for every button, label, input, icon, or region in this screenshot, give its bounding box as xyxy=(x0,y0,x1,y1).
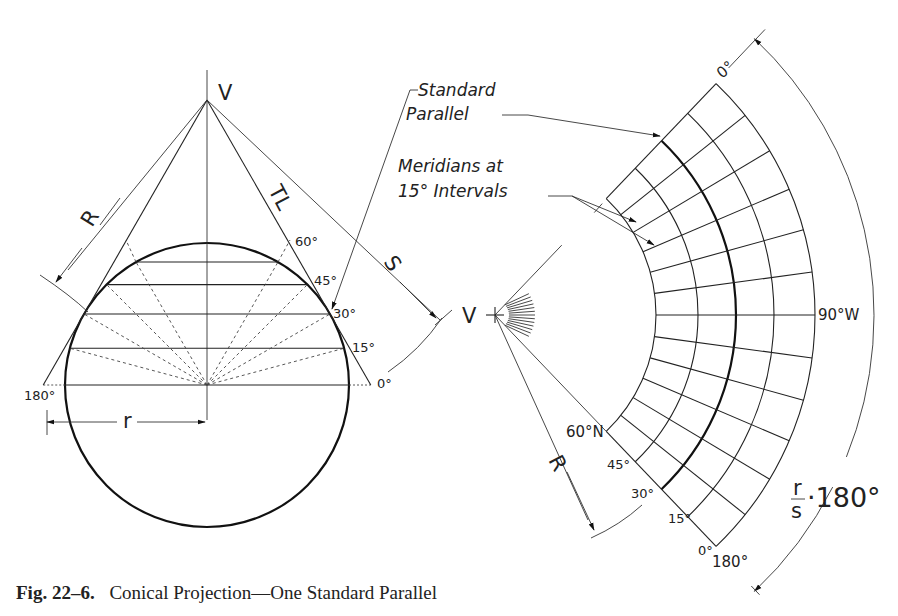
latitude-label-60: 60° xyxy=(295,234,318,249)
meridian-line-8 xyxy=(650,358,803,400)
mini-fan-stroke-5 xyxy=(509,311,535,313)
meridian-line-2 xyxy=(633,151,769,233)
r-right-arrow xyxy=(567,472,594,530)
r-dimension-arrow xyxy=(56,248,82,282)
standard-parallel-callout-line1: Standard xyxy=(418,80,496,100)
arc-length-label: S xyxy=(379,251,406,276)
radial-dash-right-45 xyxy=(207,285,307,385)
meridian-180-label: 180° xyxy=(712,553,748,571)
radial-dash-left-30 xyxy=(84,314,207,385)
r-dimension-line-upper xyxy=(100,198,120,225)
s-dimension-arc xyxy=(388,318,442,372)
figure-number: Fig. 22–6. xyxy=(16,582,95,603)
apex-line-lower xyxy=(495,315,606,431)
lat-label-0: 0° xyxy=(698,543,713,558)
radial-dash-left-15 xyxy=(70,348,207,385)
angle-formula-rest: ·180° xyxy=(807,482,881,513)
radial-dash-right-15 xyxy=(207,348,344,385)
meridian-line-12 xyxy=(606,431,716,546)
angle-formula-denominator: s xyxy=(791,499,802,523)
meridian-line-0 xyxy=(606,84,716,199)
cone-elevation-view: V TL R S r 0° 15° 30° 45° 60° 180° xyxy=(24,70,452,527)
meridian-line-4 xyxy=(650,230,803,272)
lat-label-45: 45° xyxy=(607,457,630,472)
latitude-label-45: 45° xyxy=(314,273,337,288)
mini-fan-stroke-7 xyxy=(509,317,535,319)
meridian-line-3 xyxy=(643,189,789,252)
meridians-leader-2 xyxy=(572,196,654,245)
left-apex-label: V xyxy=(218,81,233,105)
latitude-label-0: 0° xyxy=(377,376,392,391)
r-right-leader xyxy=(495,315,588,520)
figure-title: Conical Projection—One Standard Parallel xyxy=(109,582,437,603)
radial-dash-left-60 xyxy=(136,262,207,385)
meridian-line-10 xyxy=(633,398,769,480)
angle-dimension-arc-mid xyxy=(846,230,874,457)
s-dimension-arrow xyxy=(400,282,436,318)
meridian-90w-label: 90°W xyxy=(818,306,860,324)
radial-dash-left-45 xyxy=(107,285,207,385)
longitude-180-label: 180° xyxy=(24,388,55,403)
lat-label-30: 30° xyxy=(631,486,654,501)
r-dimension-arc xyxy=(40,275,88,312)
angle-dimension-arc-upper xyxy=(754,39,864,230)
latitude-label-15: 15° xyxy=(352,340,375,355)
conical-projection-figure: V TL R S r 0° 15° 30° 45° 60° 180° Stand… xyxy=(0,0,898,616)
r-right-arc xyxy=(591,505,642,538)
meridians-leader-1 xyxy=(548,196,636,222)
dash-60-ext-right xyxy=(278,240,290,262)
meridian-line-9 xyxy=(643,378,789,441)
slant-radius-label-left: R xyxy=(76,206,104,231)
latitude-label-30: 30° xyxy=(333,306,356,321)
meridian-line-1 xyxy=(621,115,745,214)
slant-radius-label-right: R xyxy=(544,451,572,475)
radial-dash-right-30 xyxy=(207,314,330,385)
figure-caption: Fig. 22–6. Conical Projection—One Standa… xyxy=(16,582,437,604)
right-apex-label: V xyxy=(462,304,477,328)
meridian-0-label: 0° xyxy=(713,57,738,82)
standard-parallel-callout-line2: Parallel xyxy=(406,104,469,124)
standard-parallel-leader-right xyxy=(502,115,660,136)
radial-dash-right-60 xyxy=(207,262,278,385)
radius-label: r xyxy=(123,409,132,433)
parallel-arc-0 xyxy=(606,199,656,432)
dash-60-ext-left xyxy=(126,240,136,262)
angle-extension-top xyxy=(729,29,765,68)
angle-formula-numerator: r xyxy=(793,476,802,500)
lat-label-60n: 60°N xyxy=(566,423,604,441)
meridians-callout-line2: 15° Intervals xyxy=(398,181,508,201)
cone-and-sphere-geometry xyxy=(40,70,452,527)
lat-label-15: 15° xyxy=(668,511,691,526)
true-length-label: TL xyxy=(263,180,296,214)
meridians-callout-line1: Meridians at xyxy=(398,156,504,176)
developed-cone-view: V R 0° 90°W 180° 60°N 45° 30° 15° 0° r s… xyxy=(462,29,881,594)
